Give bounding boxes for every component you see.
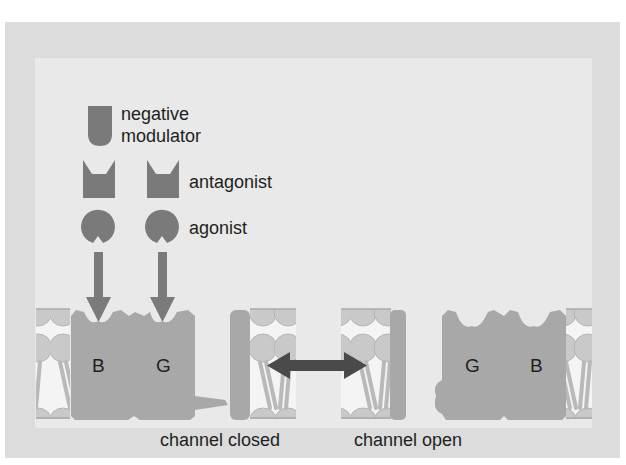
legend-negative-modulator-label-2: modulator [121, 126, 201, 146]
binding-arrow-icon [86, 252, 111, 322]
state-label-closed: channel closed [160, 430, 280, 450]
membrane-right [566, 309, 592, 419]
legend-agonist-label: agonist [189, 218, 247, 238]
receptor-open [435, 310, 566, 420]
agonist-icon [81, 210, 115, 243]
subunit-label-closed-left: B [92, 356, 105, 376]
legend-antagonist-label: antagonist [189, 172, 272, 192]
channel-subunit-closed [230, 310, 250, 420]
negative-modulator-icon [88, 106, 112, 146]
state-label-open: channel open [354, 430, 462, 450]
binding-arrow-icon [150, 252, 175, 322]
subunit-label-closed-right: G [156, 356, 171, 376]
channel-subunit-open [390, 310, 406, 420]
receptor-diagram [0, 0, 626, 465]
legend-negative-modulator-label-1: negative [121, 104, 189, 124]
subunit-label-open-right: B [530, 356, 543, 376]
antagonist-icon [147, 160, 179, 198]
antagonist-icon [83, 160, 115, 198]
agonist-icon [145, 210, 179, 243]
subunit-label-open-left: G [465, 356, 480, 376]
membrane-left [36, 309, 70, 419]
